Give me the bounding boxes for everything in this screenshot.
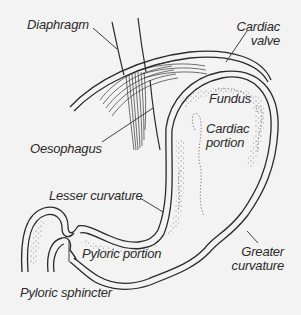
label-lesser-curvature: Lesser curvature — [49, 189, 143, 203]
label-greater-curvature: Greater curvature — [222, 245, 284, 273]
label-oesophagus: Oesophagus — [30, 142, 102, 156]
label-cardiac-valve-line1: Cardiac — [236, 20, 280, 34]
label-greater-curvature-line1: Greater — [222, 245, 284, 259]
stomach-diagram: Diaphragm Cardiac valve Fundus Oesophagu… — [0, 0, 301, 315]
stomach-lining-stipple — [30, 87, 264, 265]
rugae-folds — [178, 89, 262, 215]
label-fundus: Fundus — [209, 92, 251, 106]
label-diaphragm: Diaphragm — [27, 18, 89, 32]
label-cardiac-portion: Cardiac portion — [206, 122, 249, 150]
label-cardiac-valve: Cardiac valve — [236, 20, 280, 48]
label-cardiac-valve-line2: valve — [236, 34, 280, 48]
label-greater-curvature-line2: curvature — [222, 259, 284, 273]
label-cardiac-portion-line1: Cardiac — [206, 122, 249, 136]
label-pyloric-portion: Pyloric portion — [82, 247, 161, 261]
label-cardiac-portion-line2: portion — [206, 136, 249, 150]
label-pyloric-sphincter: Pyloric sphincter — [20, 286, 112, 300]
